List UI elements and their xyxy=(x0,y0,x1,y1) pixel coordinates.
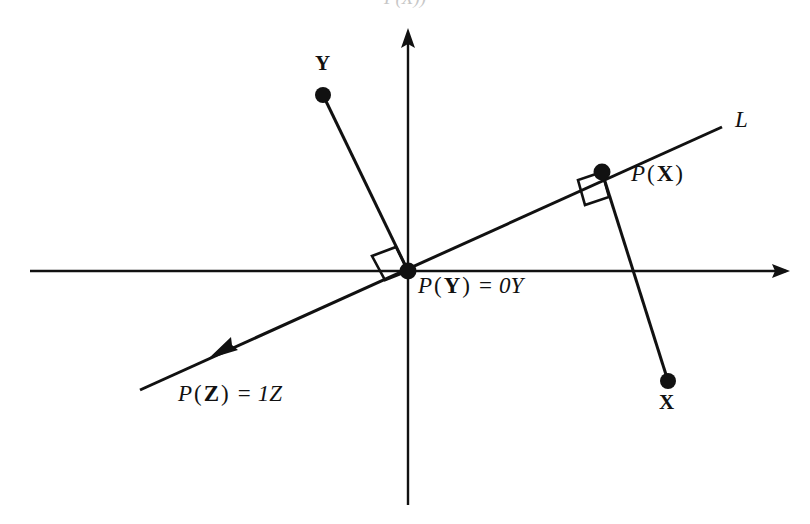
pz-close-paren: ) xyxy=(219,381,231,406)
label-projection-y: P(Y)=0Y xyxy=(418,274,523,297)
px-p: P xyxy=(631,161,645,186)
px-open-paren: ( xyxy=(645,161,657,186)
py-arg: Y xyxy=(444,273,461,298)
label-point-x: X xyxy=(659,392,675,413)
pz-open-paren: ( xyxy=(192,381,204,406)
point-dot-px xyxy=(594,164,611,181)
segment-y-origin xyxy=(323,95,408,271)
pz-value: 1Z xyxy=(258,381,282,406)
label-point-y: Y xyxy=(315,53,331,74)
py-close-paren: ) xyxy=(460,273,472,298)
segment-x-px xyxy=(602,172,668,381)
py-p: P xyxy=(418,273,432,298)
py-open-paren: ( xyxy=(432,273,444,298)
point-dot-x xyxy=(660,373,676,389)
line-l-arrowhead xyxy=(208,337,238,359)
py-value: 0Y xyxy=(499,273,523,298)
px-arg: X xyxy=(657,161,674,186)
label-line-l: L xyxy=(735,108,748,131)
label-projection-x: P(X) xyxy=(631,162,685,185)
label-projection-z: P(Z)=1Z xyxy=(178,382,282,405)
px-close-paren: ) xyxy=(673,161,685,186)
diagram-canvas xyxy=(0,0,810,524)
pz-p: P xyxy=(178,381,192,406)
pz-equals: = xyxy=(231,381,258,406)
pz-arg: Z xyxy=(204,381,219,406)
py-equals: = xyxy=(472,273,499,298)
projection-diagram: P(X)) Y X L xyxy=(0,0,810,524)
point-dot-origin xyxy=(400,263,417,280)
point-dot-y xyxy=(315,87,331,103)
